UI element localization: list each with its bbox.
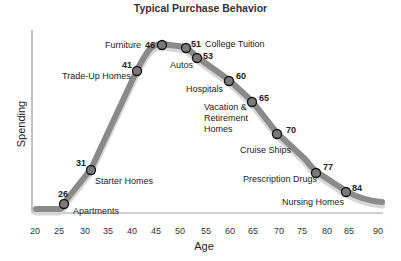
marker-age-26: 26 [58, 189, 68, 199]
x-axis-ticks: 20 25 30 35 40 45 50 55 60 65 70 75 80 8… [30, 226, 383, 236]
label-prescription-drugs: Prescription Drugs [243, 174, 318, 184]
x-tick: 75 [297, 226, 307, 236]
marker-26 [60, 200, 69, 209]
label-cruise-ships: Cruise Ships [240, 145, 292, 155]
x-tick: 55 [201, 226, 211, 236]
marker-age-51: 51 [191, 39, 201, 49]
marker-53 [193, 54, 202, 63]
x-tick: 90 [373, 226, 383, 236]
label-vacation-line2: Retirement [204, 113, 249, 123]
marker-84 [342, 188, 351, 197]
x-tick: 30 [80, 226, 90, 236]
marker-70 [273, 130, 282, 139]
y-axis-title: Spending [15, 101, 27, 148]
marker-age-46: 46 [145, 40, 155, 50]
label-vacation-line1: Vacation & [204, 102, 247, 112]
marker-age-65: 65 [259, 93, 269, 103]
label-hospitals: Hospitals [186, 84, 224, 94]
marker-age-41: 41 [122, 60, 132, 70]
x-tick: 85 [344, 226, 354, 236]
x-tick: 40 [127, 226, 137, 236]
label-trade-up-homes: Trade-Up Homes [62, 71, 131, 81]
marker-65 [248, 98, 257, 107]
label-college-tuition: College Tuition [205, 39, 265, 49]
chart-plot: 26 31 41 46 51 53 60 65 70 77 84 Apartme… [0, 0, 401, 261]
marker-51 [182, 44, 191, 53]
x-tick: 20 [30, 226, 40, 236]
x-tick: 50 [175, 226, 185, 236]
marker-60 [225, 77, 234, 86]
x-axis-title: Age [194, 240, 214, 252]
marker-age-70: 70 [286, 125, 296, 135]
label-vacation-line3: Homes [204, 124, 233, 134]
label-autos: Autos [170, 60, 194, 70]
label-nursing-homes: Nursing Homes [282, 197, 345, 207]
marker-age-60: 60 [236, 71, 246, 81]
marker-age-31: 31 [76, 158, 86, 168]
x-tick: 70 [274, 226, 284, 236]
x-tick: 45 [151, 226, 161, 236]
x-tick: 35 [103, 226, 113, 236]
label-apartments: Apartments [73, 206, 120, 216]
x-tick: 25 [54, 226, 64, 236]
marker-age-77: 77 [323, 162, 333, 172]
marker-31 [87, 166, 96, 175]
marker-age-53: 53 [203, 51, 213, 61]
marker-age-84: 84 [352, 183, 362, 193]
label-starter-homes: Starter Homes [95, 176, 154, 186]
label-furniture: Furniture [105, 40, 141, 50]
x-tick: 80 [322, 226, 332, 236]
marker-46 [158, 41, 167, 50]
x-tick: 65 [248, 226, 258, 236]
marker-41 [133, 67, 142, 76]
x-tick: 60 [225, 226, 235, 236]
